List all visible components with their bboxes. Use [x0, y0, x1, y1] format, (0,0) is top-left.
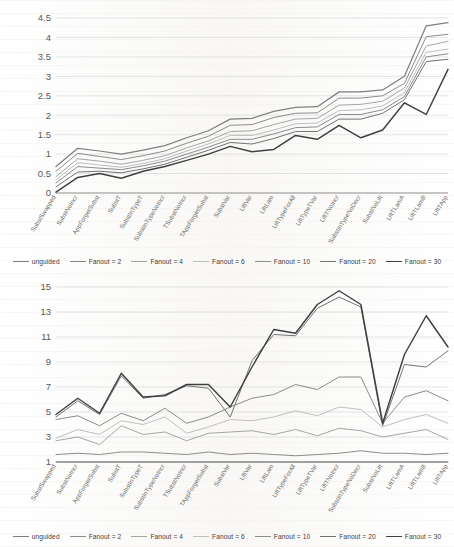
x-axis-tick-label: LiftVar — [238, 194, 253, 212]
legend-label: Fanout = 10 — [274, 258, 310, 265]
legend-item-top-2[interactable]: Fanout = 4 — [126, 258, 188, 265]
legend-line-swatch — [255, 536, 271, 537]
chart-bottom-canvas: 13579111315SubstSwappedSubstNoIncrAppFor… — [0, 275, 454, 530]
legend-bottom: unguidedFanout = 2Fanout = 4Fanout = 6Fa… — [0, 533, 454, 540]
y-axis-tick-label: 5 — [46, 406, 51, 417]
x-axis-tick-label: LiftTypeTVar — [294, 463, 318, 496]
series-line — [56, 23, 448, 167]
line-chart-bottom: 13579111315SubstSwappedSubstNoIncrAppFor… — [0, 275, 454, 547]
x-axis-tick-label: SubstVar — [212, 194, 231, 219]
legend-label: unguided — [32, 533, 60, 540]
legend-line-swatch — [320, 261, 336, 262]
legend-line-swatch — [320, 536, 336, 537]
y-axis-tick-label: 11 — [41, 331, 51, 342]
y-axis-tick-label: 1 — [46, 148, 51, 159]
legend-item-bottom-4[interactable]: Fanout = 10 — [250, 533, 315, 540]
legend-line-swatch — [193, 261, 209, 262]
series-line — [56, 49, 448, 180]
series-line — [56, 291, 448, 424]
legend-label: Fanout = 10 — [274, 533, 310, 540]
y-axis-tick-label: 4.5 — [38, 12, 51, 23]
y-axis-tick-label: 9 — [46, 356, 51, 367]
x-axis-tick-label: SubstNoLift — [361, 194, 384, 225]
legend-line-swatch — [386, 261, 402, 262]
legend-line-swatch — [70, 536, 86, 537]
legend-label: Fanout = 20 — [339, 533, 375, 540]
legend-line-swatch — [255, 261, 271, 262]
legend-label: Fanout = 4 — [150, 533, 183, 540]
legend-line-swatch — [131, 536, 147, 537]
x-axis-tick-label: LiftTLamB — [406, 194, 427, 222]
legend-item-top-0[interactable]: unguided — [8, 258, 65, 265]
y-axis-tick-label: 3.5 — [38, 51, 51, 62]
legend-item-bottom-2[interactable]: Fanout = 4 — [126, 533, 188, 540]
x-axis-tick-label: SubstT — [106, 463, 122, 484]
x-axis-tick-label: LiftVar — [238, 463, 253, 481]
legend-item-top-1[interactable]: Fanout = 2 — [65, 258, 127, 265]
legend-line-swatch — [70, 261, 86, 262]
x-axis-tick-label: LiftTApp — [431, 193, 449, 216]
series-line — [56, 451, 448, 456]
legend-item-top-5[interactable]: Fanout = 20 — [315, 258, 380, 265]
y-axis-tick-label: 3 — [46, 431, 51, 442]
y-axis-tick-label: 3 — [46, 71, 51, 82]
x-axis-tick-label: LiftTypeForAll — [270, 194, 296, 230]
x-axis-tick-label: SubstSwapped — [29, 193, 57, 232]
x-axis-tick-label: LiftLam — [258, 463, 275, 484]
legend-item-bottom-0[interactable]: unguided — [8, 533, 65, 540]
legend-line-swatch — [386, 536, 402, 537]
x-axis-tick-label: SubstT — [106, 194, 122, 215]
x-axis-tick-label: SubstNoIncr — [55, 463, 79, 496]
figure-container: 00.511.522.533.544.5SubstSwappedSubstNoI… — [0, 0, 454, 547]
y-axis-tick-label: 15 — [40, 281, 51, 292]
y-axis-tick-label: 7 — [46, 381, 51, 392]
legend-line-swatch — [13, 261, 29, 262]
x-axis-tick-label: SubstSwapped — [29, 462, 57, 501]
x-axis-tick-label: LiftTypeForAll — [270, 463, 296, 499]
x-axis-tick-label: LiftLam — [258, 194, 275, 215]
x-axis-tick-label: LiftTNoIncr — [318, 194, 340, 223]
series-line — [56, 34, 448, 171]
y-axis-tick-label: 0.5 — [38, 168, 51, 179]
legend-item-bottom-6[interactable]: Fanout = 30 — [381, 533, 446, 540]
legend-label: Fanout = 30 — [405, 258, 441, 265]
legend-label: Fanout = 2 — [89, 258, 122, 265]
legend-item-bottom-5[interactable]: Fanout = 20 — [315, 533, 380, 540]
legend-item-top-3[interactable]: Fanout = 6 — [188, 258, 250, 265]
x-axis-tick-label: LiftTLamB — [406, 463, 427, 491]
legend-item-bottom-3[interactable]: Fanout = 6 — [188, 533, 250, 540]
series-line — [56, 59, 448, 187]
legend-label: unguided — [32, 258, 60, 265]
legend-item-top-6[interactable]: Fanout = 30 — [381, 258, 446, 265]
legend-label: Fanout = 6 — [212, 258, 245, 265]
legend-label: Fanout = 4 — [150, 258, 183, 265]
legend-label: Fanout = 6 — [212, 533, 245, 540]
series-line — [56, 426, 448, 445]
y-axis-tick-label: 1.5 — [38, 129, 51, 140]
chart-top-canvas: 00.511.522.533.544.5SubstSwappedSubstNoI… — [0, 0, 454, 258]
y-axis-tick-label: 2.5 — [38, 90, 51, 101]
legend-line-swatch — [193, 536, 209, 537]
legend-item-top-4[interactable]: Fanout = 10 — [250, 258, 315, 265]
x-axis-tick-label: LiftTLamA — [384, 462, 405, 490]
x-axis-tick-label: LiftTNoIncr — [318, 463, 340, 492]
legend-item-bottom-1[interactable]: Fanout = 2 — [65, 533, 127, 540]
x-axis-tick-label: LiftTApp — [431, 462, 449, 485]
line-chart-top: 00.511.522.533.544.5SubstSwappedSubstNoI… — [0, 0, 454, 275]
y-axis-tick-label: 13 — [40, 306, 51, 317]
x-axis-tick-label: LiftTypeTVar — [294, 194, 318, 227]
legend-label: Fanout = 2 — [89, 533, 122, 540]
y-axis-tick-label: 2 — [46, 110, 51, 121]
legend-line-swatch — [131, 261, 147, 262]
x-axis-tick-label: SubstNoIncr — [55, 194, 79, 227]
y-axis-tick-label: 4 — [46, 32, 51, 43]
legend-line-swatch — [13, 536, 29, 537]
series-line — [56, 297, 448, 426]
x-axis-tick-label: SubstNoLift — [361, 463, 384, 494]
legend-top: unguidedFanout = 2Fanout = 4Fanout = 6Fa… — [0, 258, 454, 265]
legend-label: Fanout = 20 — [339, 258, 375, 265]
legend-label: Fanout = 30 — [405, 533, 441, 540]
x-axis-tick-label: LiftTLamA — [384, 193, 405, 221]
x-axis-tick-label: SubstVar — [212, 463, 231, 488]
